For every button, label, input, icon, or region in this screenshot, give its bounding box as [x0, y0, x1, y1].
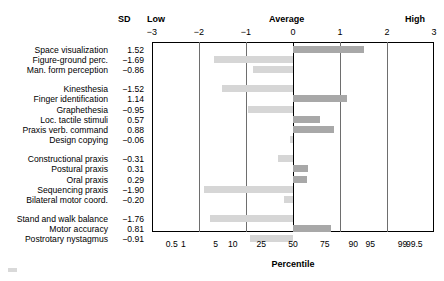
row-label: Kinesthesia [0, 84, 108, 94]
sd-tick-4: 1 [328, 27, 352, 37]
x-axis-title: Percentile [152, 259, 434, 269]
sd-tick-1: −2 [187, 27, 211, 37]
chart-container: SD Low Average High −3−2−10123 Space vis… [0, 0, 444, 281]
row-label: Postural praxis [0, 164, 108, 174]
row-sd-value: 1.14 [114, 94, 144, 104]
row-label: Loc. tactile stimuli [0, 115, 108, 125]
percentile-tick-4: 25 [248, 239, 274, 249]
sd-tick-3: 0 [281, 27, 305, 37]
row-label: Space visualization [0, 45, 108, 55]
percentile-tick-1: 1 [170, 239, 196, 249]
bar [293, 225, 331, 232]
row-label: Sequencing praxis [0, 185, 108, 195]
bar [293, 176, 307, 183]
row-sd-value: −0.31 [114, 154, 144, 164]
sd-tick-0: −3 [140, 27, 164, 37]
bar [293, 165, 308, 172]
bar [290, 136, 293, 143]
bar [293, 126, 334, 133]
row-label: Motor accuracy [0, 224, 108, 234]
zone-label-low: Low [147, 14, 165, 24]
row-label: Graphethesia [0, 105, 108, 115]
row-sd-value: −0.91 [114, 234, 144, 244]
sd-column-header: SD [118, 14, 131, 24]
gridline [246, 42, 247, 232]
bar [284, 196, 293, 203]
corner-mark [8, 268, 17, 272]
sd-tick-6: 3 [422, 27, 444, 37]
row-sd-value: 0.57 [114, 115, 144, 125]
bar [204, 186, 293, 193]
row-sd-value: −0.86 [114, 65, 144, 75]
percentile-tick-6: 75 [312, 239, 338, 249]
bar [222, 85, 293, 92]
percentile-tick-3: 10 [220, 239, 246, 249]
zone-label-average: Average [269, 14, 304, 24]
row-sd-value: 0.29 [114, 175, 144, 185]
percentile-tick-10: 99.5 [401, 239, 427, 249]
row-label: Stand and walk balance [0, 214, 108, 224]
row-label: Design copying [0, 135, 108, 145]
row-label: Man. form perception [0, 65, 108, 75]
row-sd-value: −0.95 [114, 105, 144, 115]
bar [253, 66, 293, 73]
row-sd-value: 0.88 [114, 125, 144, 135]
row-label: Constructional praxis [0, 154, 108, 164]
gridline [387, 42, 388, 232]
bar [210, 215, 293, 222]
sd-tick-5: 2 [375, 27, 399, 37]
bar [293, 46, 364, 53]
row-sd-value: 0.31 [114, 164, 144, 174]
bar [293, 116, 320, 123]
row-sd-value: −1.90 [114, 185, 144, 195]
row-label: Praxis verb. command [0, 125, 108, 135]
row-sd-value: 0.81 [114, 224, 144, 234]
bar [293, 95, 347, 102]
percentile-tick-5: 50 [280, 239, 306, 249]
row-sd-value: −0.20 [114, 195, 144, 205]
zero-gridline [293, 42, 294, 232]
row-label: Finger identification [0, 94, 108, 104]
bar [214, 56, 293, 63]
row-sd-value: −1.52 [114, 84, 144, 94]
row-sd-value: −1.69 [114, 55, 144, 65]
sd-tick-2: −1 [234, 27, 258, 37]
row-label: Figure-ground perc. [0, 55, 108, 65]
percentile-tick-8: 95 [357, 239, 383, 249]
zone-label-high: High [405, 14, 425, 24]
row-label: Oral praxis [0, 175, 108, 185]
gridline [199, 42, 200, 232]
bar [248, 106, 293, 113]
row-label: Postrotary nystagmus [0, 234, 108, 244]
row-label: Bilateral motor coord. [0, 195, 108, 205]
gridline [340, 42, 341, 232]
bar [278, 155, 293, 162]
row-sd-value: −1.76 [114, 214, 144, 224]
row-sd-value: −0.06 [114, 135, 144, 145]
row-sd-value: 1.52 [114, 45, 144, 55]
